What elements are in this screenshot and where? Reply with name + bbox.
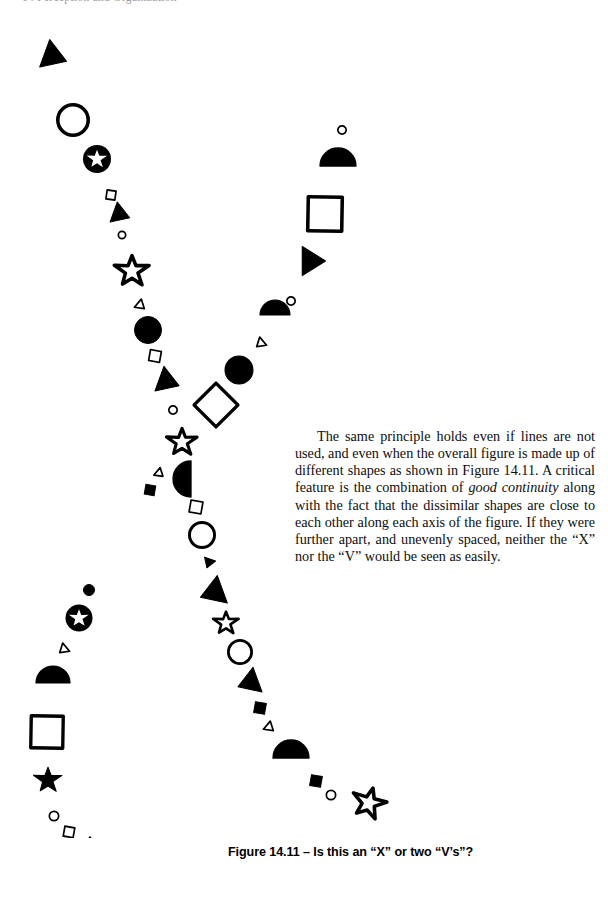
open-square-right	[308, 197, 343, 232]
filled-half-disc-down	[173, 461, 191, 497]
open-circle-3	[228, 640, 251, 663]
paragraph-emphasis: good continuity	[469, 479, 559, 495]
open-star	[114, 256, 149, 285]
small-open-circle-3	[326, 790, 335, 799]
tiny-open-triangle-3	[263, 721, 276, 735]
filled-circle-mid	[225, 356, 253, 384]
filled-triangle-left	[195, 576, 227, 611]
filled-circle	[135, 317, 162, 344]
tiny-open-triangle-right	[253, 337, 266, 351]
figure-caption: Figure 14.11 – Is this an “X” or two “V’…	[228, 845, 588, 859]
filled-circle-with-star	[83, 145, 111, 173]
small-open-square	[106, 190, 116, 200]
open-square-left	[31, 716, 64, 749]
filled-star	[33, 767, 62, 791]
small-filled-square	[144, 484, 156, 496]
filled-triangle-right	[40, 40, 72, 75]
filled-triangle-right-2	[110, 202, 133, 228]
tiny-open-triangle-2	[154, 468, 166, 480]
small-open-circle-right	[287, 297, 295, 305]
filled-half-disc-right-2	[320, 148, 356, 166]
filled-half-disc-left	[36, 666, 70, 683]
small-filled-triangle	[201, 557, 215, 570]
document-page: 14 Perception and Organization The same …	[0, 0, 608, 911]
small-open-circle-bottom	[49, 811, 58, 820]
filled-triangle-left-2	[233, 667, 262, 699]
small-open-square-2	[149, 350, 162, 363]
filled-circle-with-star-2	[66, 605, 93, 632]
small-open-circle-2	[169, 406, 177, 414]
small-filled-square-2	[254, 702, 267, 715]
tiny-open-triangle	[134, 299, 147, 313]
open-star-3	[213, 612, 239, 633]
body-paragraph: The same principle holds even if lines a…	[295, 428, 595, 565]
filled-half-disc-right-3	[260, 300, 290, 315]
running-head: 14 Perception and Organization	[22, 0, 442, 5]
small-filled-square-3	[310, 775, 323, 788]
open-star-4	[348, 784, 389, 821]
open-circle	[58, 105, 88, 135]
filled-triangle-right-4	[302, 246, 325, 275]
open-diamond	[194, 383, 238, 427]
small-open-circle	[118, 231, 125, 238]
tiny-open-square-bottom	[63, 826, 75, 838]
filled-triangle-right-3	[155, 366, 184, 398]
tiny-open-triangle-left	[56, 643, 69, 657]
filled-half-disc-right	[273, 740, 309, 758]
small-filled-circle-lower-left	[84, 585, 95, 596]
small-open-square-3	[189, 500, 203, 514]
small-open-circle-top-right	[338, 126, 346, 134]
open-circle-2	[189, 522, 214, 547]
open-star-2	[166, 428, 197, 454]
